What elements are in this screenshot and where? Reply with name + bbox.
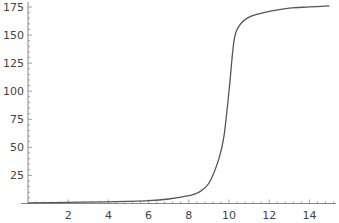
axes xyxy=(21,2,336,204)
x-tick-label: 6 xyxy=(145,209,152,222)
x-tick-label: 10 xyxy=(222,209,236,222)
line-chart: 2468101214255075100125150175 xyxy=(0,0,339,223)
y-tick-label: 75 xyxy=(10,113,24,126)
axis-ticks xyxy=(28,7,334,204)
y-tick-label: 150 xyxy=(3,29,24,42)
y-tick-label: 125 xyxy=(3,57,24,70)
data-line xyxy=(28,6,330,203)
x-tick-label: 14 xyxy=(302,209,316,222)
tick-labels: 2468101214255075100125150175 xyxy=(3,1,316,222)
x-tick-label: 12 xyxy=(262,209,276,222)
y-tick-label: 175 xyxy=(3,1,24,14)
x-tick-label: 4 xyxy=(105,209,112,222)
x-tick-label: 8 xyxy=(185,209,192,222)
y-tick-label: 25 xyxy=(10,169,24,182)
x-tick-label: 2 xyxy=(65,209,72,222)
y-tick-label: 50 xyxy=(10,141,24,154)
y-tick-label: 100 xyxy=(3,85,24,98)
